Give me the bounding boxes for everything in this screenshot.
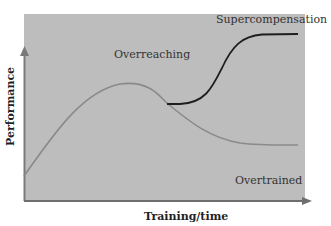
x-axis-arrow-icon: [302, 197, 312, 205]
supercompensation-label: Supercompensation: [216, 13, 327, 26]
diagram-canvas: [0, 0, 331, 226]
performance-diagram: Overreaching Supercompensation Overtrain…: [0, 0, 331, 226]
x-axis-title: Training/time: [144, 210, 228, 223]
y-axis-title: Performance: [4, 67, 17, 146]
overreaching-label: Overreaching: [114, 48, 190, 61]
overtrained-label: Overtrained: [235, 174, 302, 187]
plot-area: [24, 14, 305, 201]
